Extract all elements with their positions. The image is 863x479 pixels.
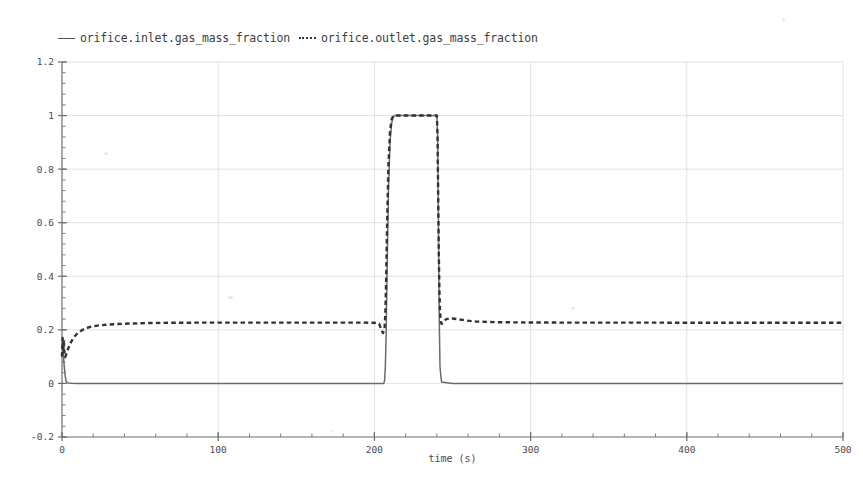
y-tick-label: 0.2 [37,324,54,335]
data-series [62,116,843,384]
series-line-inlet [62,116,843,384]
minor-ticks [62,62,843,437]
y-tick-label: 0.4 [37,271,54,282]
y-tick-label: 0 [48,378,54,389]
x-tick-label: 0 [59,444,65,455]
chart-container: orifice.inlet.gas_mass_fraction orifice.… [0,0,863,479]
plot-area: -0.200.20.40.60.811.2 0100200300400500 t… [0,0,863,479]
scan-artifact-speck [330,430,333,432]
grid-lines [62,62,843,437]
x-tick-label: 300 [522,444,539,455]
scan-artifact-speck [228,296,233,299]
scan-artifact-speck [782,18,785,21]
y-tick-label: 0.8 [37,164,54,175]
scan-artifact-speck [571,307,575,310]
y-tick-labels: -0.200.20.40.60.811.2 [31,56,54,442]
x-tick-label: 500 [834,444,851,455]
x-axis-title: time (s) [428,453,476,464]
y-tick-label: -0.2 [31,431,54,442]
y-tick-label: 1 [48,110,54,121]
axis-lines [62,62,843,437]
series-line-outlet [62,116,843,358]
y-tick-label: 0.6 [37,217,54,228]
x-tick-label: 200 [366,444,383,455]
x-tick-label: 100 [210,444,227,455]
scan-artifact-speck [104,152,108,155]
y-tick-label: 1.2 [37,56,54,67]
x-tick-label: 400 [678,444,695,455]
